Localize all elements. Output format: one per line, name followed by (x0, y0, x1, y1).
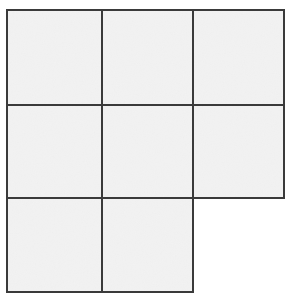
grid-cell-1-2 (102, 10, 193, 105)
grid-cell-2-1 (7, 105, 102, 198)
grid-cell-3-1 (7, 198, 102, 292)
grid-cell-1-3 (193, 10, 284, 105)
grid-cell-2-2 (102, 105, 193, 198)
grid-cell-3-2 (102, 198, 193, 292)
grid-cell-1-1 (7, 10, 102, 105)
grid-drawing (0, 0, 294, 300)
figure-canvas (0, 0, 294, 300)
grid-cell-2-3 (193, 105, 284, 198)
